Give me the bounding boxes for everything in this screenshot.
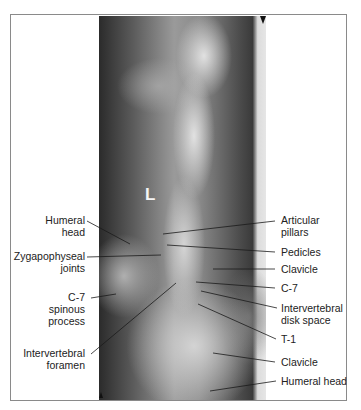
label-clavicle-lower: Clavicle xyxy=(281,356,318,368)
label-clavicle-upper: Clavicle xyxy=(281,263,318,275)
film-corner-marker-bottom xyxy=(99,392,103,398)
label-humeral-head-right: Humeral head xyxy=(281,375,347,387)
label-intervertebral-disk-space: Intervertebral disk space xyxy=(281,302,343,326)
film-corner-marker-top xyxy=(260,16,266,24)
radiograph-image xyxy=(99,16,266,400)
side-marker-L: L xyxy=(145,186,155,203)
label-c7: C-7 xyxy=(281,282,298,294)
label-humeral-head-left: Humeral head xyxy=(34,214,85,238)
label-t1: T-1 xyxy=(281,333,296,345)
label-articular-pillars: Articular pillars xyxy=(281,214,320,238)
label-pedicles: Pedicles xyxy=(281,246,321,258)
label-c7-spinous-process: C-7 spinous process xyxy=(30,291,85,327)
label-intervertebral-foramen: Intervertebral foramen xyxy=(6,347,85,371)
label-zygapophyseal-joints: Zygapophyseal joints xyxy=(6,250,85,274)
